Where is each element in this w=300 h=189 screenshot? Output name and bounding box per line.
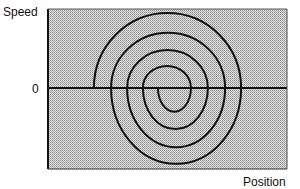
x-axis-label: Position bbox=[243, 175, 286, 189]
y-tick-label-zero: 0 bbox=[32, 82, 39, 96]
y-axis-label: Speed bbox=[3, 5, 38, 19]
phase-plot: Speed 0 Position bbox=[0, 0, 300, 189]
